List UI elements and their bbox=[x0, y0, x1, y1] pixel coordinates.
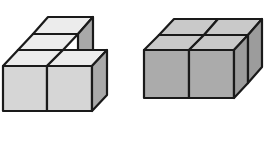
left-front-cube1-face bbox=[3, 66, 47, 111]
figure-right-2x2-block bbox=[144, 19, 262, 98]
left-front-cube2-face bbox=[47, 66, 92, 111]
figure-left-stepped-cubes bbox=[3, 17, 107, 111]
right-front-right-face bbox=[189, 50, 234, 98]
right-front-left-face bbox=[144, 50, 189, 98]
left-middle-cube-top bbox=[18, 34, 78, 50]
cube-figures-diagram bbox=[0, 0, 268, 144]
